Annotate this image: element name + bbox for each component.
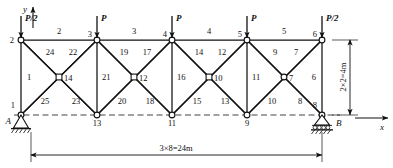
load-arrow-node-6: P/2 bbox=[322, 13, 339, 38]
member-label-6: 6 bbox=[312, 72, 316, 82]
truss-diagram-canvas: y x 234512116116242225231917201814121513… bbox=[0, 0, 393, 168]
node-label-9: 9 bbox=[245, 118, 249, 128]
node-label-11: 11 bbox=[168, 118, 176, 128]
member-label-12: 12 bbox=[218, 47, 227, 57]
dimension-vertical: 2×2=4m bbox=[332, 40, 358, 115]
member-label-5: 5 bbox=[282, 26, 286, 36]
member-label-24: 24 bbox=[46, 47, 55, 57]
member-label-14: 14 bbox=[195, 47, 204, 57]
coordinate-axes: y x bbox=[22, 4, 388, 132]
applied-loads: P/2PPPP/2 bbox=[21, 13, 339, 38]
crossing-marker-14 bbox=[56, 74, 62, 80]
load-arrow-node-2: P/2 bbox=[21, 13, 38, 38]
node-label-14: 14 bbox=[64, 73, 73, 83]
member-label-2: 2 bbox=[57, 26, 61, 36]
crossing-marker-12 bbox=[131, 74, 137, 80]
member-label-23: 23 bbox=[72, 96, 81, 106]
node-label-7: 7 bbox=[289, 73, 293, 83]
dimension-vertical-label: 2×2=4m bbox=[338, 62, 348, 91]
member-label-4: 4 bbox=[207, 26, 212, 36]
load-arrow-node-3: P bbox=[97, 13, 107, 38]
member-label-17: 17 bbox=[143, 47, 152, 57]
node-label-4: 4 bbox=[163, 29, 168, 39]
node-label-10: 10 bbox=[214, 73, 223, 83]
node-label-2: 2 bbox=[10, 35, 14, 45]
node-label-3: 3 bbox=[88, 29, 92, 39]
member-label-13: 13 bbox=[221, 96, 230, 106]
member-label-22: 22 bbox=[69, 47, 78, 57]
crossing-marker-10 bbox=[206, 74, 212, 80]
support-b-label: B bbox=[336, 118, 342, 128]
member-label-9: 9 bbox=[273, 47, 277, 57]
truss-diagram-figure: y x 234512116116242225231917201814121513… bbox=[0, 0, 393, 168]
dimension-horizontal: 3×8=24m bbox=[31, 132, 322, 162]
load-label-5: P bbox=[251, 13, 257, 23]
member-label-25: 25 bbox=[41, 96, 50, 106]
node-label-6: 6 bbox=[313, 29, 317, 39]
load-arrow-node-5: P bbox=[247, 13, 257, 38]
node-label-5: 5 bbox=[238, 29, 242, 39]
member-label-21: 21 bbox=[102, 72, 111, 82]
load-arrow-node-4: P bbox=[172, 13, 182, 38]
node-label-1: 1 bbox=[11, 100, 15, 110]
member-label-11: 11 bbox=[252, 72, 260, 82]
member-label-20: 20 bbox=[118, 96, 127, 106]
member-label-7: 7 bbox=[294, 47, 298, 57]
dimension-horizontal-label: 3×8=24m bbox=[159, 143, 193, 153]
node-label-12: 12 bbox=[139, 73, 148, 83]
member-label-16: 16 bbox=[177, 72, 186, 82]
support-b-roller: B bbox=[311, 115, 342, 134]
member-label-1: 1 bbox=[27, 72, 31, 82]
x-axis-label: x bbox=[379, 122, 384, 132]
node-label-13: 13 bbox=[93, 118, 102, 128]
load-label-6: P/2 bbox=[326, 13, 339, 23]
member-label-18: 18 bbox=[146, 96, 155, 106]
member-label-3: 3 bbox=[132, 26, 136, 36]
load-label-4: P bbox=[176, 13, 182, 23]
support-a-label: A bbox=[5, 116, 12, 126]
member-label-19: 19 bbox=[120, 47, 129, 57]
member-label-8: 8 bbox=[298, 96, 302, 106]
joint-marker-7 bbox=[281, 74, 287, 80]
node-label-8: 8 bbox=[313, 100, 317, 110]
load-label-2: P/2 bbox=[25, 13, 38, 23]
member-label-10: 10 bbox=[268, 96, 277, 106]
support-a-pin: A bbox=[5, 115, 32, 133]
member-label-15: 15 bbox=[193, 96, 202, 106]
load-label-3: P bbox=[101, 13, 107, 23]
